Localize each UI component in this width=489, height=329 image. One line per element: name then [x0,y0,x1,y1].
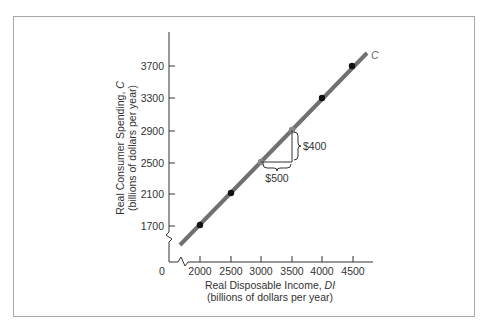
y-axis-title-group: Real Consumer Spending, C (billions of d… [114,81,138,215]
data-point [349,63,355,69]
y-tick-label: 2900 [141,125,165,137]
consumption-line [180,53,367,245]
x-tick-labels: 2000 2500 3000 3500 4000 4500 [188,265,365,277]
y-tick-label: 3300 [141,92,165,104]
origin-label: 0 [159,265,165,277]
y-ticks [169,66,175,226]
vertical-bracket [294,132,301,160]
y-tick-label: 2100 [141,188,165,200]
bracket-label-400: $400 [303,140,327,152]
x-ticks [200,256,353,262]
data-point [228,190,234,196]
curve-label: C [371,49,379,61]
x-tick-label: 3500 [280,265,304,277]
y-tick-labels: 3700 3300 2900 2500 2100 1700 [141,60,165,232]
y-tick-label: 3700 [141,60,165,72]
x-tick-label: 2500 [219,265,243,277]
bracket-label-500: $500 [265,172,289,184]
x-tick-label: 3000 [249,265,273,277]
data-point [319,95,325,101]
y-axis-subtitle: (billions of dollars per year) [126,85,138,211]
x-tick-label: 4000 [310,265,334,277]
x-tick-label: 2000 [188,265,212,277]
x-tick-label: 4500 [341,265,365,277]
consumption-chart: 3700 3300 2900 2500 2100 1700 2000 2500 … [0,0,489,329]
x-axis-title: Real Disposable Income, DI [205,279,335,291]
x-axis-subtitle: (billions of dollars per year) [207,291,333,303]
y-tick-label: 2500 [141,157,165,169]
data-point [197,222,203,228]
y-axis-title: Real Consumer Spending, C [114,81,126,215]
y-tick-label: 1700 [141,220,165,232]
horizontal-bracket [263,164,291,171]
